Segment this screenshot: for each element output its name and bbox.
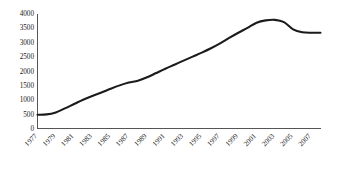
x-tick-label: 1997 [206, 132, 222, 148]
y-tick-label: 2500 [20, 53, 35, 61]
y-tick-label: 2000 [20, 68, 35, 76]
y-tick-label: 3500 [20, 24, 35, 32]
x-axis-tick-labels: 1977197919811983198519871989199119931995… [23, 132, 313, 148]
y-axis-tick-labels: 05001000150020002500300035004000 [20, 10, 35, 133]
x-tick-label: 1993 [169, 132, 185, 148]
chart-plot-area: 05001000150020002500300035004000 1977197… [0, 0, 344, 171]
x-tick-label: 2007 [297, 132, 313, 148]
y-tick-label: 1000 [20, 96, 35, 104]
x-tick-label: 1977 [23, 132, 39, 148]
x-tick-label: 2005 [279, 132, 295, 148]
line-chart: 05001000150020002500300035004000 1977197… [0, 0, 344, 171]
y-tick-label: 500 [23, 111, 34, 119]
y-tick-label: 3000 [20, 39, 35, 47]
x-tick-label: 1985 [96, 132, 112, 148]
x-tick-label: 1989 [133, 132, 149, 148]
x-tick-label: 2003 [260, 132, 276, 148]
x-tick-label: 1991 [151, 132, 167, 148]
x-tick-label: 1979 [41, 132, 57, 148]
x-tick-label: 1999 [224, 132, 240, 148]
x-tick-label: 2001 [242, 132, 258, 148]
data-series-line [38, 20, 321, 115]
x-tick-label: 1981 [60, 132, 76, 148]
y-tick-label: 4000 [20, 10, 35, 18]
y-tick-label: 1500 [20, 82, 35, 90]
x-tick-label: 1983 [78, 132, 94, 148]
x-tick-label: 1987 [114, 132, 130, 148]
x-tick-label: 1995 [187, 132, 203, 148]
